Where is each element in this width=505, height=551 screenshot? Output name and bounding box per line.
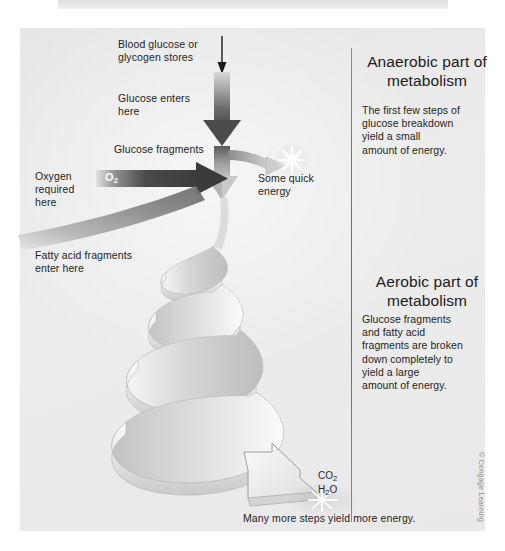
label-h2o: H2O: [318, 484, 337, 500]
label-oxygen-required: Oxygen required here: [35, 170, 74, 209]
o2-letter: O: [105, 171, 114, 183]
h2o-tail: O: [329, 484, 337, 495]
section-divider: [351, 48, 352, 522]
section-body-aerobic: Glucose fragments and fatty acid fragmen…: [362, 313, 487, 392]
label-bottom-caption: Many more steps yield more energy.: [243, 512, 415, 525]
copyright-credit: © Cengage Learning: [477, 452, 486, 542]
co2-subscript: 2: [333, 474, 337, 483]
label-glucose-enters: Glucose enters here: [118, 92, 190, 118]
section-title-aerobic: Aerobic part of metabolism: [362, 272, 492, 310]
label-fatty-acid: Fatty acid fragments enter here: [35, 249, 132, 275]
o2-subscript: 2: [114, 176, 118, 185]
co2-letters: CO: [318, 470, 333, 481]
label-o2-symbol: O2: [105, 171, 118, 185]
section-title-anaerobic: Anaerobic part of metabolism: [362, 52, 492, 90]
section-body-anaerobic: The first few steps of glucose breakdown…: [362, 104, 487, 157]
label-some-quick-energy: Some quick energy: [258, 172, 314, 198]
cropped-header-strip: [58, 0, 448, 9]
label-glucose-fragments: Glucose fragments: [114, 143, 204, 156]
label-blood-glucose: Blood glucose or glycogen stores: [118, 38, 198, 64]
